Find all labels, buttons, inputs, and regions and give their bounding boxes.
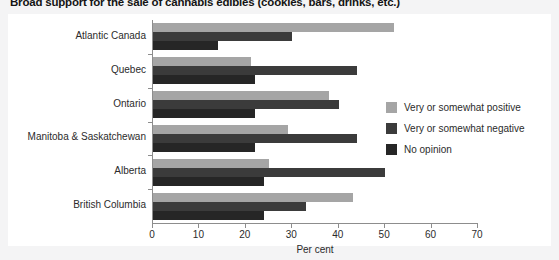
- legend-item: Very or somewhat positive: [386, 98, 525, 116]
- bar: [153, 125, 288, 134]
- bar: [153, 57, 251, 66]
- legend-label: No opinion: [404, 144, 452, 155]
- bar: [153, 193, 353, 202]
- category-label: Manitoba & Saskatchewan: [8, 131, 146, 142]
- bar: [153, 100, 339, 109]
- category-label: Quebec: [8, 64, 146, 75]
- chart-plot-panel: Atlantic CanadaQuebecOntarioManitoba & S…: [8, 14, 551, 246]
- legend-swatch: [386, 123, 397, 134]
- x-axis-tick-label: 70: [471, 229, 482, 240]
- x-axis-title: Per cent: [152, 244, 478, 255]
- legend-item: Very or somewhat negative: [386, 119, 525, 137]
- bar: [153, 66, 357, 75]
- x-axis-tick-label: 60: [425, 229, 436, 240]
- x-axis-tick: [152, 224, 153, 228]
- bar: [153, 32, 292, 41]
- x-axis-tick-label: 30: [286, 229, 297, 240]
- legend-swatch: [386, 144, 397, 155]
- bar: [153, 134, 357, 143]
- chart-legend: Very or somewhat positiveVery or somewha…: [386, 98, 525, 161]
- x-axis-tick-label: 10: [193, 229, 204, 240]
- bar: [153, 177, 264, 186]
- x-axis-tick: [291, 224, 292, 228]
- bar: [153, 168, 385, 177]
- bar: [153, 91, 329, 100]
- y-axis-tick: [148, 88, 152, 89]
- legend-swatch: [386, 102, 397, 113]
- y-axis-tick: [148, 189, 152, 190]
- y-axis-tick: [148, 54, 152, 55]
- bar: [153, 211, 264, 220]
- chart-title: Broad support for the sale of cannabis e…: [10, 0, 400, 8]
- x-axis-tick: [477, 224, 478, 228]
- legend-label: Very or somewhat positive: [404, 102, 521, 113]
- legend-item: No opinion: [386, 140, 525, 158]
- bar: [153, 41, 218, 50]
- category-label: Alberta: [8, 165, 146, 176]
- bar: [153, 202, 306, 211]
- bar: [153, 23, 394, 32]
- category-label: Atlantic Canada: [8, 30, 146, 41]
- x-axis-line: [152, 223, 478, 224]
- x-axis-tick: [245, 224, 246, 228]
- legend-label: Very or somewhat negative: [404, 123, 525, 134]
- category-label: British Columbia: [8, 199, 146, 210]
- category-label: Ontario: [8, 98, 146, 109]
- x-axis-tick-label: 40: [332, 229, 343, 240]
- bar: [153, 75, 255, 84]
- x-axis-tick: [384, 224, 385, 228]
- bar: [153, 159, 269, 168]
- y-axis-tick: [148, 155, 152, 156]
- x-axis-tick-label: 0: [149, 229, 155, 240]
- bar: [153, 143, 255, 152]
- x-axis-tick-label: 20: [239, 229, 250, 240]
- x-axis-tick-label: 50: [379, 229, 390, 240]
- y-axis-tick: [148, 122, 152, 123]
- bar: [153, 109, 255, 118]
- x-axis-tick: [431, 224, 432, 228]
- x-axis-tick: [198, 224, 199, 228]
- x-axis-tick: [338, 224, 339, 228]
